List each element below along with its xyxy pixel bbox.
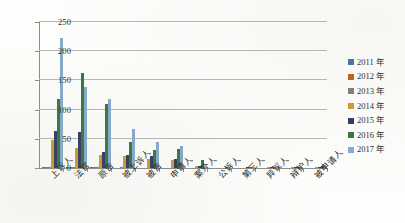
legend-label: 2012 年 [357,72,385,81]
legend-swatch-icon [348,59,354,65]
y-tick-mark [35,51,40,52]
legend-item[interactable]: 2016 年 [348,128,403,143]
bar-group [111,22,135,168]
bar-group [255,22,279,168]
legend-swatch-icon [348,103,354,109]
plot-area [39,22,327,168]
bar-group [135,22,159,168]
legend-swatch-icon [348,74,354,80]
bar-group [231,22,255,168]
legend-item[interactable]: 2011 年 [348,55,403,70]
y-tick-mark [35,139,40,140]
legend-label: 2015 年 [357,116,385,125]
legend-item[interactable]: 2014 年 [348,99,403,114]
y-tick-label: 50 [45,135,71,144]
legend-label: 2011 年 [357,58,385,67]
bar-group [183,22,207,168]
y-tick-mark [35,80,40,81]
legend-swatch-icon [348,132,354,138]
bar-group [39,22,63,168]
legend-swatch-icon [348,147,354,153]
bar-group [63,22,87,168]
bar-group [303,22,327,168]
y-tick-label: 250 [45,18,71,27]
chart-legend: 2011 年2012 年2013 年2014 年2015 年2016 年2017… [348,55,403,157]
bar-group [207,22,231,168]
legend-label: 2017 年 [357,145,385,154]
bar-group [159,22,183,168]
legend-item[interactable]: 2012 年 [348,70,403,85]
legend-swatch-icon [348,118,354,124]
y-tick-label: 200 [45,47,71,56]
y-tick-mark [35,110,40,111]
legend-label: 2013 年 [357,87,385,96]
legend-label: 2016 年 [357,131,385,140]
legend-item[interactable]: 2015 年 [348,113,403,128]
y-tick-mark [35,168,40,169]
bar-group [87,22,111,168]
legend-swatch-icon [348,88,354,94]
legend-item[interactable]: 2017 年 [348,143,403,158]
y-tick-label: 150 [45,76,71,85]
y-tick-label: 100 [45,106,71,115]
legend-label: 2014 年 [357,102,385,111]
bar-group [279,22,303,168]
y-tick-mark [35,22,40,23]
bar-chart-figure: 050100150200250 上诉人法官原告被上诉人被告申请人案外人公诉人第三… [0,0,405,223]
legend-item[interactable]: 2013 年 [348,84,403,99]
